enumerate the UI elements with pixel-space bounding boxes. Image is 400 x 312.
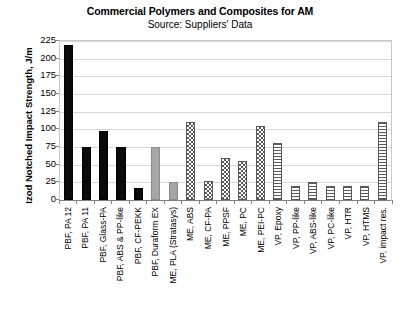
bar bbox=[326, 186, 335, 200]
bar bbox=[238, 161, 247, 200]
y-tick-label: 125 bbox=[16, 105, 56, 116]
x-tick-label: ME, PLA (Stratasys) bbox=[168, 207, 177, 284]
x-tick-mark bbox=[234, 200, 235, 204]
y-tick-label: 50 bbox=[16, 158, 56, 169]
bar bbox=[64, 45, 73, 200]
y-tick-label: 150 bbox=[16, 87, 56, 98]
bar bbox=[116, 147, 125, 200]
x-tick-mark bbox=[94, 200, 95, 204]
x-label-cell: VP, Epoxy bbox=[269, 205, 287, 310]
chart-subtitle: Source: Suppliers' Data bbox=[0, 18, 400, 31]
x-label-cell: PBF, Glass-PA bbox=[94, 205, 112, 310]
x-tick-label: VP, PP-like bbox=[291, 207, 300, 249]
bar bbox=[99, 131, 108, 200]
bar-slot bbox=[252, 41, 269, 200]
bar bbox=[256, 126, 265, 200]
x-tick-label: PBF, PA 11 bbox=[81, 207, 90, 249]
x-tick-label: ME, PEI-PC bbox=[256, 207, 265, 253]
x-label-cell: VP, impact res. bbox=[375, 205, 393, 310]
x-tick-mark bbox=[357, 200, 358, 204]
x-tick-mark bbox=[286, 200, 287, 204]
bar bbox=[151, 147, 160, 200]
bar-slot bbox=[269, 41, 286, 200]
x-label-cell: ME, PEI-PC bbox=[252, 205, 270, 310]
bar-slot bbox=[165, 41, 182, 200]
bar-slot bbox=[77, 41, 94, 200]
bar-slot bbox=[356, 41, 373, 200]
bar bbox=[169, 182, 178, 200]
x-tick-label: PBF, Glass-PA bbox=[98, 207, 107, 263]
bar-slot bbox=[374, 41, 391, 200]
x-label-cell: ME, CF-PA bbox=[199, 205, 217, 310]
x-tick-mark bbox=[164, 200, 165, 204]
x-tick-mark bbox=[374, 200, 375, 204]
x-tick-label: ME, ABS bbox=[186, 207, 195, 241]
x-tick-mark bbox=[251, 200, 252, 204]
bar-slot bbox=[130, 41, 147, 200]
bar bbox=[134, 188, 143, 200]
x-tick-mark bbox=[129, 200, 130, 204]
bar bbox=[378, 122, 387, 200]
bar bbox=[204, 181, 213, 200]
x-tick-mark bbox=[304, 200, 305, 204]
x-label-cell: VP, PP-like bbox=[287, 205, 305, 310]
x-tick-mark bbox=[269, 200, 270, 204]
bar bbox=[343, 186, 352, 200]
x-tick-mark bbox=[146, 200, 147, 204]
bar-slot bbox=[60, 41, 77, 200]
x-label-cell: ME, PLA (Stratasys) bbox=[164, 205, 182, 310]
bar bbox=[221, 158, 230, 200]
x-tick-mark bbox=[59, 200, 60, 204]
x-tick-label: VP, ABS-like bbox=[309, 207, 318, 254]
x-tick-label: VP, HTMS bbox=[361, 207, 370, 246]
x-tick-mark bbox=[216, 200, 217, 204]
bar-slot bbox=[217, 41, 234, 200]
chart-header: Commercial Polymers and Composites for A… bbox=[0, 5, 400, 31]
chart-title: Commercial Polymers and Composites for A… bbox=[0, 5, 400, 18]
x-label-cell: ME, PC bbox=[234, 205, 252, 310]
x-tick-label: VP, HTR bbox=[344, 207, 353, 239]
x-label-cell: ME, ABS bbox=[182, 205, 200, 310]
bar bbox=[360, 186, 369, 200]
x-tick-label: ME, CF-PA bbox=[204, 207, 213, 249]
x-tick-label: VP, PC-like bbox=[326, 207, 335, 249]
y-tick-label: 75 bbox=[16, 140, 56, 151]
y-tick-label: 100 bbox=[16, 122, 56, 133]
bar-slot bbox=[234, 41, 251, 200]
x-tick-mark bbox=[181, 200, 182, 204]
x-tick-mark bbox=[76, 200, 77, 204]
x-axis-labels: PBF, PA 12PBF, PA 11PBF, Glass-PAPBF, AB… bbox=[59, 205, 392, 310]
x-tick-label: VP, impact res. bbox=[379, 207, 388, 264]
y-tick-label: 0 bbox=[16, 193, 56, 204]
x-tick-label: PBF, ABS & PP-like bbox=[116, 207, 125, 281]
bar-slot bbox=[286, 41, 303, 200]
bar-slot bbox=[339, 41, 356, 200]
x-label-cell: PBF, PA 12 bbox=[59, 205, 77, 310]
y-tick-label: 175 bbox=[16, 69, 56, 80]
bar-slot bbox=[199, 41, 216, 200]
bar bbox=[186, 122, 195, 200]
bar bbox=[308, 182, 317, 200]
x-label-cell: PBF, Duraform EX bbox=[147, 205, 165, 310]
y-tick-label: 200 bbox=[16, 52, 56, 63]
x-label-cell: PBF, PA 11 bbox=[77, 205, 95, 310]
x-tick-label: PBF, Duraform EX bbox=[151, 207, 160, 276]
bar-slot bbox=[321, 41, 338, 200]
x-tick-label: PBF, CF-PEKK bbox=[133, 207, 142, 264]
x-label-cell: VP, PC-like bbox=[322, 205, 340, 310]
chart-container: Commercial Polymers and Composites for A… bbox=[0, 0, 400, 312]
bar-slot bbox=[182, 41, 199, 200]
x-tick-mark bbox=[111, 200, 112, 204]
x-label-cell: VP, ABS-like bbox=[304, 205, 322, 310]
x-tick-label: PBF, PA 12 bbox=[63, 207, 72, 249]
x-tick-mark bbox=[199, 200, 200, 204]
y-tick-label: 25 bbox=[16, 175, 56, 186]
plot-area bbox=[59, 40, 392, 201]
x-tick-mark bbox=[339, 200, 340, 204]
x-label-cell: VP, HTR bbox=[340, 205, 358, 310]
x-tick-mark bbox=[392, 200, 393, 204]
x-tick-label: VP, Epoxy bbox=[274, 207, 283, 246]
x-label-cell: PBF, CF-PEKK bbox=[129, 205, 147, 310]
bar bbox=[291, 186, 300, 200]
bar-slot bbox=[95, 41, 112, 200]
